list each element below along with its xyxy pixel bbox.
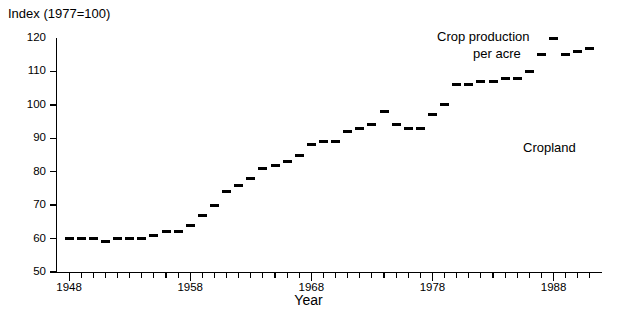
y-tick-label-70: 70 (18, 198, 46, 210)
x-tick-1991 (589, 273, 590, 278)
x-tick-1984 (505, 273, 506, 278)
x-tick-1954 (141, 273, 142, 278)
y-tick-70 (50, 204, 57, 205)
x-tick-1950 (93, 273, 94, 278)
data-marker (525, 70, 534, 73)
x-tick-1959 (202, 273, 203, 278)
data-marker (258, 167, 267, 170)
data-marker (585, 47, 594, 50)
data-marker (428, 113, 437, 116)
x-tick-1955 (153, 273, 154, 278)
x-tick-1981 (468, 273, 469, 278)
x-tick-1953 (129, 273, 130, 278)
data-marker (125, 237, 134, 240)
x-tick-1971 (347, 273, 348, 278)
data-marker (234, 184, 243, 187)
x-tick-1978 (432, 273, 433, 281)
data-marker (392, 123, 401, 126)
x-tick-1975 (396, 273, 397, 278)
y-tick-90 (50, 138, 57, 139)
data-marker (246, 177, 255, 180)
x-tick-1983 (492, 273, 493, 278)
data-marker (271, 164, 280, 167)
data-marker (440, 103, 449, 106)
x-tick-1956 (165, 273, 166, 278)
x-tick-1987 (541, 273, 542, 278)
data-marker (65, 237, 74, 240)
x-tick-1990 (577, 273, 578, 278)
data-marker (416, 127, 425, 130)
x-tick-1960 (214, 273, 215, 278)
data-marker (537, 53, 546, 56)
data-marker (331, 140, 340, 143)
data-marker (573, 50, 582, 53)
x-tick-1973 (371, 273, 372, 278)
data-marker (198, 214, 207, 217)
x-tick-1952 (117, 273, 118, 278)
x-tick-1985 (517, 273, 518, 278)
data-marker (222, 190, 231, 193)
y-tick-label-90: 90 (18, 131, 46, 143)
crop-production-annotation-line1: Crop production (437, 29, 530, 44)
y-tick-label-80: 80 (18, 165, 46, 177)
data-marker (380, 110, 389, 113)
x-tick-1961 (226, 273, 227, 278)
x-tick-1962 (238, 273, 239, 278)
data-marker (89, 237, 98, 240)
data-marker (210, 204, 219, 207)
data-marker (283, 160, 292, 163)
x-tick-1972 (359, 273, 360, 278)
data-marker (367, 123, 376, 126)
data-marker (162, 230, 171, 233)
data-marker (174, 230, 183, 233)
data-marker (149, 234, 158, 237)
x-tick-1968 (311, 273, 312, 281)
x-tick-1986 (529, 273, 530, 278)
x-tick-1949 (81, 273, 82, 278)
y-tick-label-60: 60 (18, 232, 46, 244)
x-tick-1974 (383, 273, 384, 278)
x-tick-1958 (190, 273, 191, 281)
x-tick-1977 (420, 273, 421, 278)
data-marker (343, 130, 352, 133)
x-tick-1976 (408, 273, 409, 278)
plot-area (57, 38, 602, 272)
x-tick-1964 (262, 273, 263, 278)
data-marker (295, 154, 304, 157)
x-tick-1969 (323, 273, 324, 278)
data-marker (513, 77, 522, 80)
x-tick-1965 (274, 273, 275, 278)
data-marker (404, 127, 413, 130)
x-tick-1989 (565, 273, 566, 278)
data-marker (307, 143, 316, 146)
data-marker (476, 80, 485, 83)
y-tick-80 (50, 171, 57, 172)
y-tick-100 (50, 104, 57, 105)
data-marker (319, 140, 328, 143)
data-marker (561, 53, 570, 56)
y-tick-label-110: 110 (18, 64, 46, 76)
data-marker (186, 224, 195, 227)
crop-production-annotation-line2: per acre (473, 46, 521, 61)
x-axis-title: Year (0, 292, 617, 308)
chart-container: Index (1977=100) 5060708090100110120 194… (0, 0, 617, 319)
y-axis-title: Index (1977=100) (8, 6, 110, 21)
x-tick-1982 (480, 273, 481, 278)
data-marker (489, 80, 498, 83)
y-tick-50 (50, 271, 57, 272)
data-marker (501, 77, 510, 80)
data-marker (464, 83, 473, 86)
x-tick-1988 (553, 273, 554, 281)
x-tick-1970 (335, 273, 336, 278)
cropland-annotation: Cropland (523, 140, 576, 155)
x-tick-1979 (444, 273, 445, 278)
x-axis-line (56, 272, 602, 273)
data-marker (113, 237, 122, 240)
data-marker (549, 37, 558, 40)
x-tick-1951 (105, 273, 106, 278)
data-marker (137, 237, 146, 240)
x-tick-1957 (178, 273, 179, 278)
data-marker (77, 237, 86, 240)
y-tick-label-120: 120 (18, 31, 46, 43)
x-tick-1980 (456, 273, 457, 278)
